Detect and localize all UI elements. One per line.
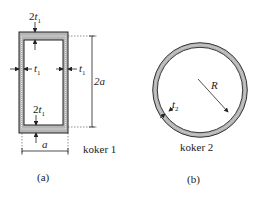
tube-thickness-label: t2 [172,99,179,113]
koker-2-label: koker 2 [180,142,213,153]
caption-b: (b) [187,174,200,185]
radius-label: R [211,80,218,91]
circular-tube-section [153,43,248,138]
height-dimension [68,36,97,127]
koker-1-label: koker 1 [83,144,116,155]
width-dimension-label: a [42,139,48,150]
left-thickness-label: t1 [34,63,41,77]
height-dimension-label: 2a [94,76,105,87]
right-thickness-label: t1 [79,63,86,77]
bottom-thickness-label: 2t1 [33,104,45,118]
diagram-canvas [0,0,253,197]
top-thickness-label: 2t1 [29,11,41,25]
caption-a: (a) [37,172,49,183]
